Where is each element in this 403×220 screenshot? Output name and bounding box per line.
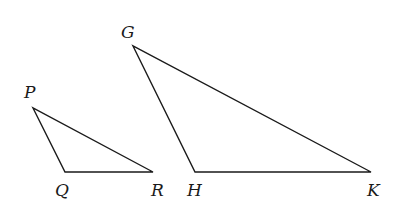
vertex-label-q: Q (55, 180, 69, 200)
vertex-label-p: P (23, 82, 36, 102)
vertex-label-r: R (150, 180, 164, 200)
triangles-diagram: P Q R G H K (0, 0, 403, 220)
vertex-label-g: G (121, 22, 135, 42)
vertex-label-k: K (366, 180, 381, 200)
vertex-label-h: H (186, 180, 203, 200)
